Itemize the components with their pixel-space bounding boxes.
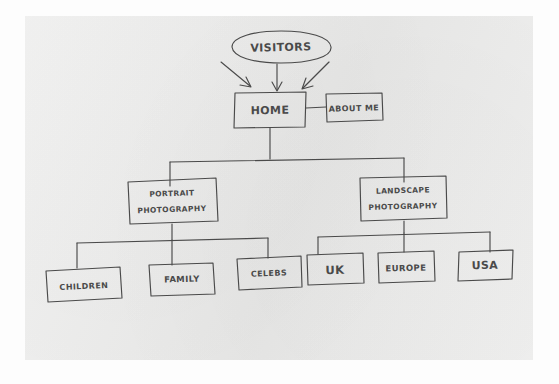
node-visitors-label: VISITORS [250,40,311,55]
edge-portrait-children-bus [77,224,268,268]
edge-visitors-home-left [221,62,251,87]
edge-home-about [306,107,326,108]
node-landscape-shape [360,176,447,221]
node-home-label: HOME [251,104,290,118]
node-uk-label: UK [325,263,345,278]
node-family-label: FAMILY [164,274,200,285]
node-europe-label: EUROPE [385,262,426,273]
node-portrait-shape [128,178,218,224]
node-celebs-label: CELEBS [251,268,287,278]
sitemap-diagram: VISITORS HOME ABOUT ME PORTRAIT PHOTOGRA… [0,0,559,384]
node-landscape-label-line1: LANDSCAPE [376,185,430,195]
node-landscape-label-line2: PHOTOGRAPHY [368,201,437,212]
node-usa-label: USA [471,259,498,273]
node-portrait-label-line1: PORTRAIT [149,188,195,199]
node-children-label: CHILDREN [59,281,108,292]
edge-visitors-home-center [272,64,282,91]
node-about-label: ABOUT ME [329,103,380,113]
edge-landscape-children-bus [318,221,490,254]
node-portrait-label-line2: PHOTOGRAPHY [137,204,206,215]
edge-visitors-home-right [302,62,329,89]
sitemap-sketch-canvas: VISITORS HOME ABOUT ME PORTRAIT PHOTOGRA… [0,0,559,384]
